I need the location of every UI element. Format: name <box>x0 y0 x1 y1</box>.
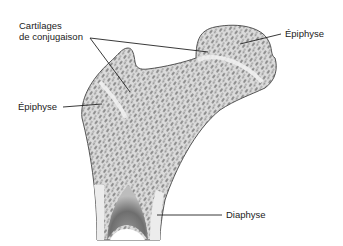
leader-line-cartilage-head <box>90 38 208 52</box>
label-epiphyse-right: Épiphyse <box>285 28 324 39</box>
bone-outline <box>82 25 277 240</box>
cortical-wall-left <box>94 185 104 240</box>
label-cartilage-line1: Cartilages <box>19 20 83 31</box>
label-diaphyse: Diaphyse <box>226 209 266 220</box>
label-cartilage-line2: de conjugaison <box>19 31 83 42</box>
label-cartilages-de-conjugaison: Cartilages de conjugaison <box>19 20 83 42</box>
label-epiphyse-left: Épiphyse <box>18 101 57 112</box>
